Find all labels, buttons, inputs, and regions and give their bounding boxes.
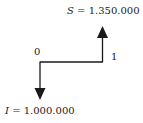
outflow-label: I = 1.000.000 <box>5 105 75 116</box>
outflow-symbol: I <box>5 105 9 116</box>
period-0-label: 0 <box>34 46 40 57</box>
outflow-value: 1.000.000 <box>24 105 75 116</box>
inflow-value: 1.350.000 <box>89 5 140 16</box>
inflow-label: S = 1.350.000 <box>67 5 140 16</box>
inflow-symbol: S <box>67 5 74 16</box>
period-1-label: 1 <box>111 51 117 62</box>
outflow-equals: = <box>12 105 20 116</box>
outflow-arrow-head-icon <box>35 88 46 100</box>
inflow-equals: = <box>77 5 85 16</box>
inflow-arrow-head-icon <box>97 26 108 38</box>
